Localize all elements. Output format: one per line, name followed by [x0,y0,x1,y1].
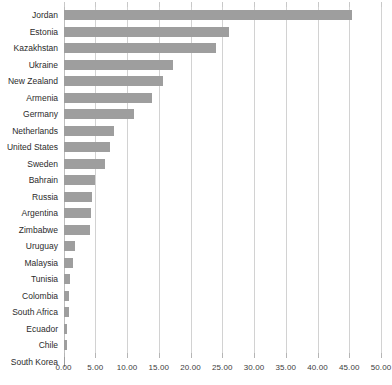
category-label: Netherlands [0,123,58,140]
category-label: Kazakhstan [0,40,58,57]
bar [64,27,229,37]
category-label: Argentina [0,205,58,222]
chart-row: Sweden [64,156,382,173]
chart-row: Uruguay [64,238,382,255]
chart-row: New Zealand [64,73,382,90]
chart-row: Jordan [64,7,382,24]
category-label: Colombia [0,288,58,305]
chart-row: South Africa [64,304,382,321]
bar [64,93,153,103]
bar [64,291,70,301]
bar [64,340,67,350]
bar [64,159,105,169]
x-tick-label: 50.00 [371,363,392,372]
chart-row: Russia [64,189,382,206]
category-label: Ukraine [0,57,58,74]
bar [64,225,91,235]
x-tick-label: 5.00 [87,363,103,372]
category-label: Malaysia [0,255,58,272]
category-label: South Africa [0,304,58,321]
chart-row: Zimbabwe [64,222,382,239]
bar [64,241,75,251]
x-tick-label: 25.00 [212,363,233,372]
chart-row: Armenia [64,90,382,107]
category-label: Estonia [0,24,58,41]
bar [64,208,91,218]
x-tick-label: 45.00 [339,363,360,372]
bottom-tick-50.00 [381,353,382,358]
category-label: South Korea [0,354,58,371]
bar [64,175,96,185]
category-label: Germany [0,106,58,123]
x-tick-label: 40.00 [307,363,328,372]
top-tick-50.00 [381,2,382,7]
chart-row: Chile [64,337,382,354]
category-label: Russia [0,189,58,206]
chart-row: Netherlands [64,123,382,140]
bar [64,274,71,284]
chart-row: Germany [64,106,382,123]
category-label: New Zealand [0,73,58,90]
chart-row: Tunisia [64,271,382,288]
bar [64,324,68,334]
category-label: Tunisia [0,271,58,288]
category-label: Ecuador [0,321,58,338]
bar [64,142,110,152]
bar [64,109,134,119]
x-tick-label: 35.00 [275,363,296,372]
bar [64,60,174,70]
chart-row: Malaysia [64,255,382,272]
bar [64,192,93,202]
x-tick-label: 0.00 [56,363,72,372]
chart-row: Estonia [64,24,382,41]
bar-chart: JordanEstoniaKazakhstanUkraineNew Zealan… [0,0,392,385]
chart-row: Kazakhstan [64,40,382,57]
bar [64,258,74,268]
bar [64,126,115,136]
x-tick-label: 15.00 [148,363,169,372]
x-tick-label: 10.00 [117,363,138,372]
category-label: Uruguay [0,238,58,255]
category-label: Sweden [0,156,58,173]
category-label: Chile [0,337,58,354]
category-label: United States [0,139,58,156]
chart-row: Ecuador [64,321,382,338]
chart-row: Colombia [64,288,382,305]
category-label: Jordan [0,7,58,24]
category-label: Bahrain [0,172,58,189]
plot-area: JordanEstoniaKazakhstanUkraineNew Zealan… [64,7,382,353]
chart-row: Argentina [64,205,382,222]
chart-row: Ukraine [64,57,382,74]
bar [64,307,69,317]
bar [64,43,216,53]
x-tick-label: 30.00 [244,363,265,372]
x-tick-label: 20.00 [180,363,201,372]
category-label: Armenia [0,90,58,107]
category-label: Zimbabwe [0,222,58,239]
chart-row: Bahrain [64,172,382,189]
bar [64,76,164,86]
chart-row: United States [64,139,382,156]
bar [64,10,353,20]
gridline-50.00 [381,7,382,353]
